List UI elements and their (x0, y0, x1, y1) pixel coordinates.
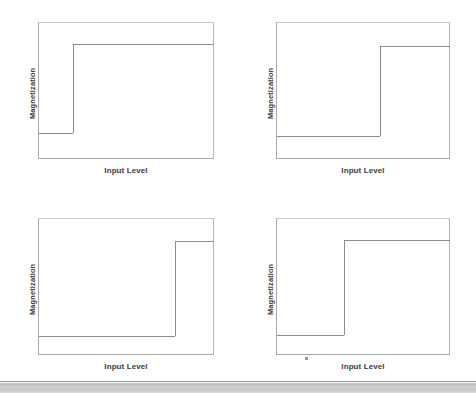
x-axis-label: Input Level (276, 166, 450, 175)
y-axis-label: Magnetization (28, 264, 37, 315)
curve-low-plateau (277, 335, 344, 336)
y-axis-label: Magnetization (28, 68, 37, 119)
y-axis-label: Magnetization (266, 264, 275, 315)
curve-high-plateau (73, 44, 213, 45)
curve-step-riser (73, 44, 74, 133)
y-axis-label: Magnetization (266, 68, 275, 119)
chart-panel-top-left: Magnetization Input Level (0, 0, 238, 196)
plot-frame (38, 22, 214, 159)
x-axis-tick-mark (305, 357, 308, 360)
plot-frame (38, 218, 214, 355)
curve-low-plateau (39, 133, 73, 134)
x-axis-label: Input Level (38, 362, 214, 371)
curve-high-plateau (380, 46, 450, 47)
x-axis-label: Input Level (38, 166, 214, 175)
chart-panel-top-right: Magnetization Input Level (238, 0, 476, 196)
curve-step-riser (344, 240, 345, 335)
x-axis-label: Input Level (276, 362, 450, 371)
curve-step-riser (380, 46, 381, 136)
curve-high-plateau (344, 240, 450, 241)
curve-high-plateau (175, 241, 213, 242)
figure-page: Magnetization Input Level Magnetization … (0, 0, 476, 393)
curve-step-riser (175, 241, 176, 336)
curve-low-plateau (39, 336, 175, 337)
chart-panel-bottom-right: Magnetization Input Level (238, 196, 476, 393)
page-edge-band (0, 382, 476, 393)
curve-low-plateau (277, 136, 380, 137)
plot-frame (276, 22, 450, 159)
chart-panel-bottom-left: Magnetization Input Level (0, 196, 238, 393)
